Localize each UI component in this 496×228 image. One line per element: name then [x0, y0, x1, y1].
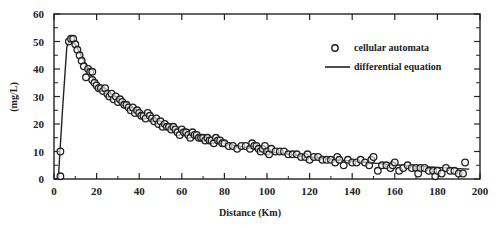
data-point-circle — [460, 170, 467, 177]
chart-canvas: 020406080100120140160180200 010203040506… — [0, 0, 496, 228]
legend-label-cellular-automata: cellular automata — [354, 42, 429, 53]
data-point-circle — [370, 154, 377, 161]
x-tick-label: 180 — [429, 185, 446, 197]
y-tick-label: 20 — [33, 118, 45, 130]
y-tick-label: 30 — [33, 91, 45, 103]
x-tick-label: 120 — [301, 185, 318, 197]
x-tick-label: 40 — [134, 185, 146, 197]
x-axis-title: Distance (Km) — [219, 207, 281, 219]
legend: cellular automata differential equation — [325, 42, 442, 72]
x-tick-label: 140 — [344, 185, 361, 197]
x-tick-label: 60 — [176, 185, 188, 197]
y-axis-ticks: 0102030405060 — [33, 8, 480, 185]
x-tick-label: 20 — [91, 185, 103, 197]
legend-circle-icon — [332, 45, 338, 51]
data-point-circle — [462, 159, 469, 166]
data-point-circle — [57, 173, 64, 180]
x-tick-label: 100 — [259, 185, 276, 197]
y-tick-label: 50 — [33, 36, 45, 48]
x-tick-label: 160 — [387, 185, 404, 197]
y-tick-label: 60 — [33, 8, 45, 20]
data-point-circle — [89, 69, 96, 76]
y-tick-label: 10 — [33, 146, 45, 158]
y-tick-label: 40 — [33, 63, 45, 75]
y-tick-label: 0 — [39, 173, 45, 185]
cellular-automata-points — [57, 36, 468, 180]
x-tick-label: 200 — [472, 185, 489, 197]
data-point-circle — [57, 148, 64, 155]
x-tick-label: 0 — [51, 185, 57, 197]
x-tick-label: 80 — [219, 185, 231, 197]
y-axis-title: (mg/L) — [8, 82, 20, 111]
data-point-circle — [392, 159, 399, 166]
legend-label-differential-equation: differential equation — [354, 61, 442, 72]
